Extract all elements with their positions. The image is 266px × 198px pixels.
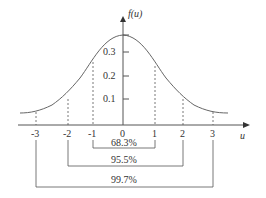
y-axis-label: f(u)	[128, 8, 143, 20]
x-tick-3: 3	[210, 128, 215, 139]
interval-label-95: 95.5%	[111, 154, 137, 165]
x-tick-neg3: -3	[31, 128, 39, 139]
x-tick-1: 1	[152, 128, 157, 139]
x-axis-arrow	[243, 122, 250, 128]
y-tick-0-2: 0.2	[103, 70, 116, 81]
y-axis-arrow	[120, 16, 126, 22]
y-tick-0-3: 0.3	[103, 46, 116, 57]
x-tick-neg2: -2	[63, 128, 71, 139]
x-tick-2: 2	[180, 128, 185, 139]
x-tick-neg1: -1	[88, 128, 96, 139]
x-axis-label: u	[240, 130, 245, 141]
y-tick-0-1: 0.1	[103, 93, 116, 104]
normal-distribution-diagram: 0.1 0.2 0.3 f(u) u -3 -2 -1 0 1 2 3 68.3…	[0, 0, 266, 198]
bell-curve	[20, 35, 228, 113]
diagram-canvas: 0.1 0.2 0.3 f(u) u -3 -2 -1 0 1 2 3 68.3…	[0, 0, 266, 198]
interval-label-99: 99.7%	[111, 174, 137, 185]
interval-label-68: 68.3%	[111, 137, 137, 148]
